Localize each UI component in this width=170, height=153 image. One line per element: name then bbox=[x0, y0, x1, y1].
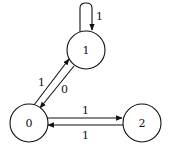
edge-0-to-1: 1 bbox=[34, 59, 69, 105]
self-loop-arrow bbox=[80, 3, 92, 32]
edge-label-1-to-0: 0 bbox=[61, 83, 68, 96]
edge-label-0-to-1: 1 bbox=[38, 76, 45, 89]
edge-label-1-to-1: 1 bbox=[96, 10, 103, 23]
state-label-1: 1 bbox=[83, 44, 90, 57]
edge-label-2-to-0: 1 bbox=[82, 129, 89, 142]
edge-1-to-0: 0 bbox=[40, 66, 74, 108]
edge-1-to-1: 1 bbox=[80, 3, 103, 32]
state-node-0: 0 bbox=[10, 104, 48, 142]
state-diagram: 1 1 0 1 1 1 0 2 bbox=[0, 0, 170, 153]
state-node-2: 2 bbox=[123, 104, 161, 142]
edge-0-to-2: 1 bbox=[47, 104, 122, 118]
edge-label-0-to-2: 1 bbox=[82, 104, 89, 117]
state-label-0: 0 bbox=[26, 117, 33, 130]
state-node-1: 1 bbox=[67, 31, 105, 69]
arrow-1-to-0 bbox=[40, 66, 74, 108]
edge-2-to-0: 1 bbox=[48, 125, 123, 142]
state-label-2: 2 bbox=[139, 117, 146, 130]
